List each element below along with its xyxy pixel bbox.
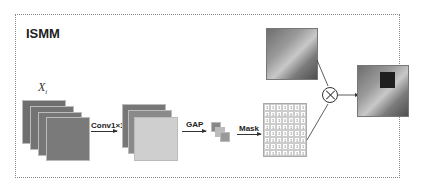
multiply-icon: [322, 87, 338, 103]
masked-bird-image: [357, 65, 409, 117]
masked-region: [380, 72, 395, 88]
